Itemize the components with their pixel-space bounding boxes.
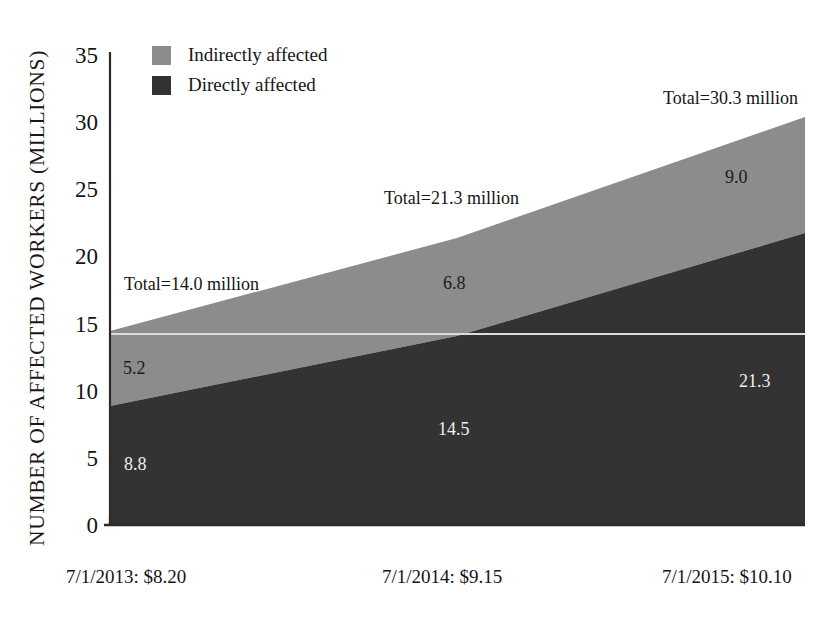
legend-swatch-indirectly-affected: [152, 46, 171, 65]
chart-figure: NUMBER OF AFFECTED WORKERS (MILLIONS) 35…: [0, 0, 839, 622]
value-label-indirect-2014: 6.8: [443, 273, 466, 294]
annotation-total-2014: Total=21.3 million: [384, 188, 519, 209]
x-axis-label-2015: 7/1/2015: $10.10: [662, 566, 792, 588]
legend-item-directly-affected[interactable]: Directly affected: [152, 70, 327, 100]
value-label-indirect-2013: 5.2: [123, 358, 146, 379]
value-label-direct-2014: 14.5: [438, 419, 470, 440]
legend: Indirectly affected Directly affected: [152, 40, 327, 100]
x-axis-label-2013: 7/1/2013: $8.20: [66, 566, 186, 588]
annotation-total-2013: Total=14.0 million: [124, 274, 259, 295]
value-label-direct-2013: 8.8: [124, 454, 147, 475]
value-label-indirect-2015: 9.0: [725, 167, 748, 188]
x-axis-label-2014: 7/1/2014: $9.15: [382, 566, 502, 588]
legend-label-directly-affected: Directly affected: [188, 74, 316, 96]
legend-label-indirectly-affected: Indirectly affected: [188, 44, 327, 66]
value-label-direct-2015: 21.3: [739, 371, 771, 392]
legend-swatch-directly-affected: [152, 76, 171, 95]
legend-item-indirectly-affected[interactable]: Indirectly affected: [152, 40, 327, 70]
annotation-total-2015: Total=30.3 million: [663, 88, 798, 109]
